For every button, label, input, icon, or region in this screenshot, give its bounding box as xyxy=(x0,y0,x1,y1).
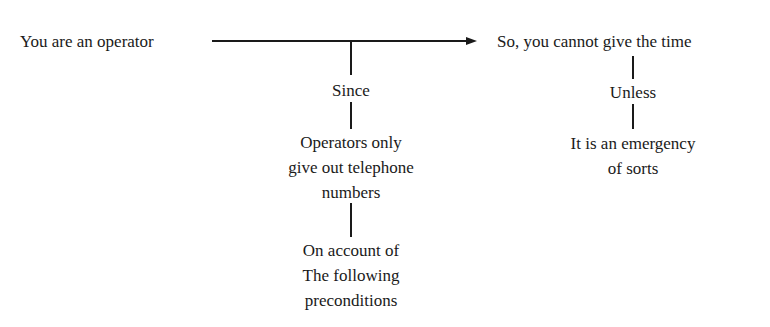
arrowhead-icon xyxy=(466,37,477,45)
warrant-line: numbers xyxy=(288,180,414,205)
rebuttal-line: It is an emergency xyxy=(571,131,696,156)
warrant-line: Operators only xyxy=(288,130,414,155)
since-connector-line xyxy=(350,102,352,129)
rebuttal-text: It is an emergency of sorts xyxy=(571,131,696,181)
backing-line: preconditions xyxy=(303,288,400,313)
conclusion-text: So, you cannot give the time xyxy=(497,29,692,54)
rebuttal-connector-line xyxy=(632,56,634,79)
since-label: Since xyxy=(332,78,370,103)
warrant-connector-line xyxy=(350,41,352,75)
backing-text: On account of The following precondition… xyxy=(303,238,400,313)
unless-label: Unless xyxy=(610,80,656,105)
argument-diagram: You are an operator So, you cannot give … xyxy=(0,0,770,327)
backing-line: The following xyxy=(303,263,400,288)
warrant-text: Operators only give out telephone number… xyxy=(288,130,414,205)
rebuttal-line: of sorts xyxy=(571,156,696,181)
unless-connector-line xyxy=(632,104,634,129)
inference-arrow-line xyxy=(212,40,468,42)
premise-text: You are an operator xyxy=(20,29,154,54)
backing-line: On account of xyxy=(303,238,400,263)
backing-connector-line xyxy=(350,203,352,237)
warrant-line: give out telephone xyxy=(288,155,414,180)
